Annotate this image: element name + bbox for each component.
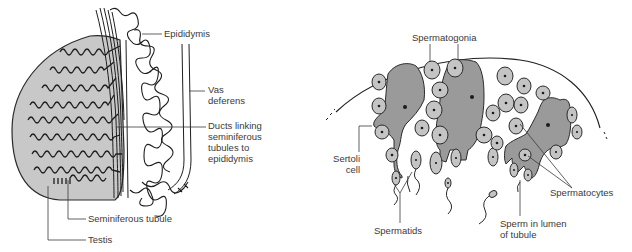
- label-spermatogonia: Spermatogonia: [412, 32, 476, 43]
- label-testis: Testis: [88, 234, 112, 245]
- sertoli-cells: [374, 60, 571, 178]
- label-sertoli-cell: Sertoli cell: [325, 153, 360, 175]
- label-spermatids: Spermatids: [374, 225, 422, 236]
- label-ducts-linking: Ducts linking seminiferous tubules to ep…: [208, 120, 262, 164]
- vas-deferens: [168, 44, 191, 194]
- label-spermatocytes: Spermatocytes: [550, 187, 613, 198]
- label-sperm-in-lumen: Sperm in lumen of tubule: [500, 218, 567, 240]
- sperm-tails: [394, 169, 520, 224]
- diagram-stage: Epididymis Vas deferens Ducts linking se…: [0, 0, 632, 252]
- label-vas-deferens: Vas deferens: [208, 84, 245, 106]
- label-epididymis: Epididymis: [164, 28, 210, 39]
- label-seminiferous-tubule: Seminiferous tubule: [88, 213, 172, 224]
- testis-drawing: [12, 8, 206, 240]
